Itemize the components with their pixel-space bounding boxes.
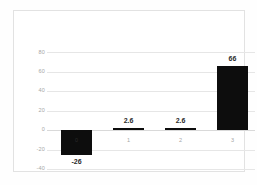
bar-2	[165, 128, 196, 131]
bar-value-label-0: -26	[57, 158, 97, 165]
x-axis-category-label-1: 1	[109, 138, 149, 144]
bar-value-label-3: 66	[213, 55, 253, 62]
y-tick-label: 60	[23, 69, 45, 75]
y-tick-label: 0	[23, 127, 45, 133]
bar-value-label-2: 2.6	[161, 117, 201, 124]
y-tick-label: 80	[23, 50, 45, 56]
gridline-80	[47, 52, 255, 53]
y-tick-label: 20	[23, 108, 45, 114]
x-axis-category-label-2: 2	[161, 138, 201, 144]
plot-area: -26 2.6 2.6 66 0 1 2 3	[47, 52, 255, 169]
y-tick-label: -40	[23, 166, 45, 172]
y-axis: 80 60 40 20 0 -20 -40	[30, 52, 45, 169]
gridline-minus40	[47, 169, 255, 170]
x-axis-category-label-3: 3	[213, 138, 253, 144]
chart-frame: 80 60 40 20 0 -20 -40 -26 2.6 2.6 66 0	[13, 10, 245, 172]
x-axis-category-label-0: 0	[57, 138, 97, 144]
bar-3	[217, 66, 248, 130]
y-tick-label: -20	[23, 147, 45, 153]
bar-1	[113, 128, 144, 131]
y-tick-label: 40	[23, 88, 45, 94]
bar-value-label-1: 2.6	[109, 117, 149, 124]
bar-chart: 80 60 40 20 0 -20 -40 -26 2.6 2.6 66 0	[0, 0, 257, 185]
